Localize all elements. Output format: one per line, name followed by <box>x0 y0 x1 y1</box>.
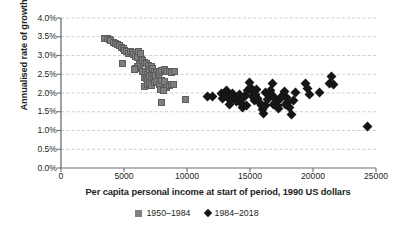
x-tick-label: 0 <box>31 172 91 181</box>
y-tick-label: 1.0% <box>27 126 57 135</box>
x-tick-label: 20000 <box>283 172 343 181</box>
chart-legend: 1950–19841984–2018 <box>0 208 394 218</box>
x-tick-label: 10000 <box>157 172 217 181</box>
legend-square-icon <box>135 210 142 217</box>
x-tick-label: 15000 <box>220 172 280 181</box>
y-tick-label: 4.0% <box>27 14 57 23</box>
y-tick-label: 2.0% <box>27 89 57 98</box>
legend-entry[interactable]: 1984–2018 <box>205 208 259 218</box>
legend-label: 1984–2018 <box>215 208 259 218</box>
y-tick-label: 3.5% <box>27 32 57 41</box>
y-tick-label: 0.5% <box>27 145 57 154</box>
y-tick-label: 0.0% <box>27 164 57 173</box>
x-tick-label: 5000 <box>94 172 154 181</box>
scatter-chart: Annualised rate of growth Per capita per… <box>0 0 394 236</box>
y-tick-label: 1.5% <box>27 107 57 116</box>
legend-entry[interactable]: 1950–1984 <box>135 208 190 218</box>
y-tick-label: 3.0% <box>27 51 57 60</box>
legend-diamond-icon <box>203 209 211 217</box>
x-tick-label: 25000 <box>346 172 394 181</box>
legend-label: 1950–1984 <box>146 208 190 218</box>
plot-area <box>0 0 394 236</box>
y-tick-label: 2.5% <box>27 70 57 79</box>
